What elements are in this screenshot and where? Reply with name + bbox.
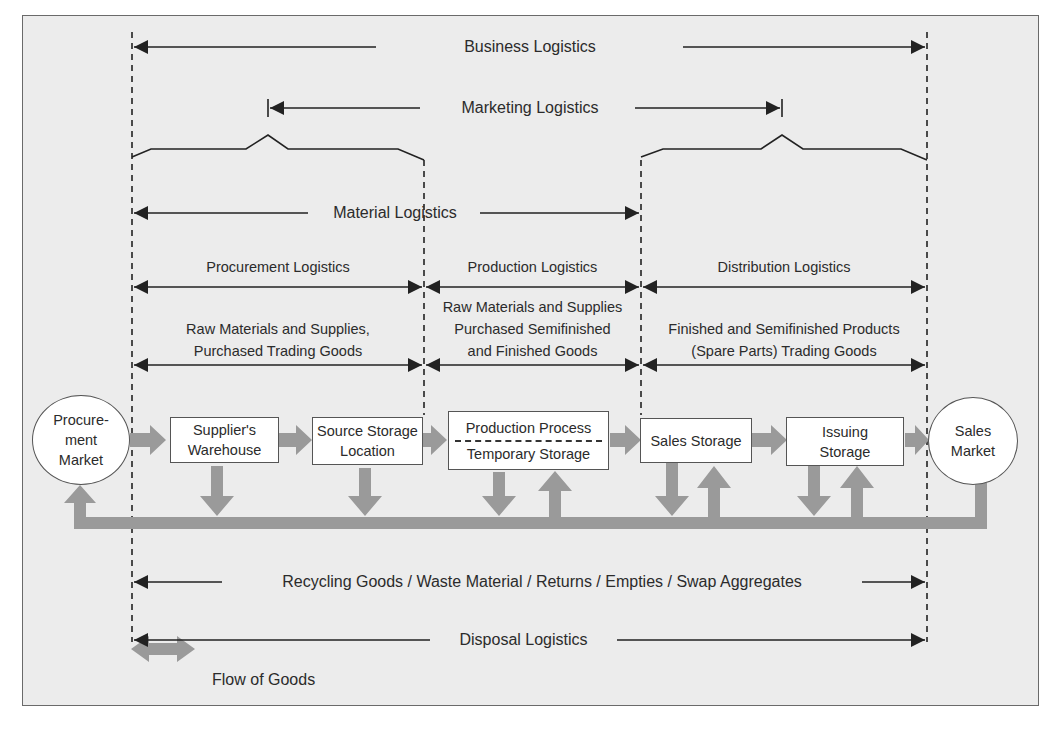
label-business-logistics: Business Logistics	[440, 37, 620, 57]
flow-down-sales-storage	[655, 463, 689, 516]
label-recycling-span: Recycling Goods / Waste Material / Retur…	[222, 572, 862, 592]
node-label: Market	[59, 450, 103, 470]
node-label: Market	[951, 441, 995, 461]
node-label: Procure-	[53, 410, 109, 430]
node-procurement-market: Procure- ment Market	[32, 395, 130, 485]
flow-arrow-1	[130, 425, 166, 455]
node-label: Issuing	[822, 422, 868, 442]
node-source-storage-location: Source Storage Location	[312, 417, 423, 465]
procurement-goods-line2: Purchased Trading Goods	[132, 341, 424, 361]
flow-arrow-5	[751, 425, 787, 455]
node-label: Location	[340, 441, 395, 461]
brace-right	[641, 135, 927, 160]
distribution-goods-line1: Finished and Semifinished Products	[641, 319, 927, 339]
node-label: Sales	[955, 421, 991, 441]
label-disposal-logistics: Disposal Logistics	[430, 630, 617, 650]
node-label: Supplier's	[193, 420, 256, 440]
production-goods-line2: Purchased Semifinished	[424, 319, 641, 339]
dashed-divider	[455, 440, 601, 442]
procurement-goods-line1: Raw Materials and Supplies,	[132, 319, 424, 339]
label-distribution-logistics: Distribution Logistics	[641, 257, 927, 277]
flow-down-production	[482, 472, 516, 516]
node-issuing-storage: Issuing Storage	[786, 417, 904, 466]
node-label-temporary-storage: Temporary Storage	[467, 444, 590, 464]
flow-down-suppliers-warehouse	[200, 466, 234, 516]
node-label-production-process: Production Process	[466, 418, 592, 438]
flow-arrow-6	[905, 425, 929, 455]
flow-up-production	[538, 471, 572, 517]
distribution-goods-line2: (Spare Parts) Trading Goods	[641, 341, 927, 361]
flow-up-sales-storage	[697, 466, 731, 517]
node-sales-storage: Sales Storage	[640, 418, 752, 463]
node-label: Storage	[820, 442, 871, 462]
flow-arrow-4	[610, 425, 641, 455]
production-goods-line3: and Finished Goods	[424, 341, 641, 361]
braces	[132, 135, 927, 160]
flow-down-issuing-storage	[797, 466, 831, 516]
flow-up-issuing-storage	[840, 466, 874, 517]
node-sales-market: Sales Market	[928, 397, 1018, 485]
flow-down-sales-market	[975, 483, 987, 529]
node-suppliers-warehouse: Supplier's Warehouse	[170, 417, 279, 463]
label-procurement-logistics: Procurement Logistics	[132, 257, 424, 277]
flow-arrow-3	[423, 425, 447, 455]
label-production-logistics: Production Logistics	[424, 257, 641, 277]
node-label: Source Storage	[317, 421, 418, 441]
node-label: Warehouse	[188, 440, 262, 460]
flow-down-source-storage	[348, 468, 382, 516]
node-label: Sales Storage	[650, 431, 741, 451]
flow-arrow-2	[276, 425, 312, 455]
node-label: ment	[65, 430, 97, 450]
node-production-process: Production Process Temporary Storage	[448, 411, 609, 470]
brace-left	[132, 135, 424, 160]
label-material-logistics: Material Logistics	[310, 203, 480, 223]
label-marketing-logistics: Marketing Logistics	[440, 98, 620, 118]
legend-flow-of-goods-label: Flow of Goods	[212, 670, 315, 690]
return-flow-bar	[74, 517, 987, 529]
production-goods-line1: Raw Materials and Supplies	[424, 297, 641, 317]
